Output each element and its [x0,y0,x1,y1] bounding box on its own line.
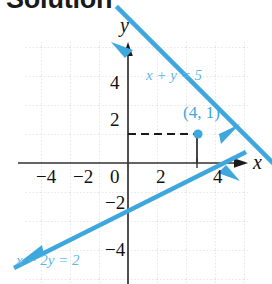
y-tick-label-neg4: −4 [105,240,125,259]
y-tick-label-neg2: −2 [105,193,125,212]
x-tick-label-0: 0 [110,167,120,186]
x-axis-label: x [253,152,262,172]
x-tick-label-2: 2 [156,167,166,186]
x-tick-label-neg2: −2 [73,167,93,186]
intersection-point-marker [193,129,202,138]
y-tick-label-2: 2 [110,110,120,129]
y-axis-label: y [120,15,129,35]
x-tick-label-neg4: −4 [36,167,56,186]
equation-label-line2: x − 2y = 2 [16,253,80,268]
figure-container: Solution [0,0,272,284]
x-tick-label-4: 4 [213,167,223,186]
equation-label-line1: x + y = 5 [146,68,202,83]
intersection-point-label: (4, 1) [183,104,220,121]
y-tick-label-4: 4 [110,73,120,92]
coordinate-plane [0,0,272,284]
